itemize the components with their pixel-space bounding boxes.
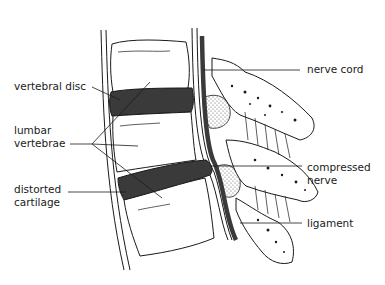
label-compressed-nerve-line1: compressed (307, 161, 371, 173)
label-compressed-nerve-line2: nerve (307, 174, 337, 186)
label-distorted-cartilage-line2: cartilage (14, 196, 60, 208)
label-lumbar-vertebrae-line1: lumbar (14, 124, 52, 136)
spinous-processes (212, 58, 318, 264)
spine-diagram: vertebral disc lumbar vertebrae distorte… (0, 0, 385, 285)
label-distorted-cartilage-line1: distorted (14, 183, 61, 195)
label-vertebral-disc: vertebral disc (14, 80, 86, 92)
label-lumbar-vertebrae-line2: vertebrae (14, 137, 65, 149)
label-ligament: ligament (307, 217, 353, 229)
upper-vertebra (111, 40, 190, 93)
label-nerve-cord: nerve cord (307, 63, 363, 75)
